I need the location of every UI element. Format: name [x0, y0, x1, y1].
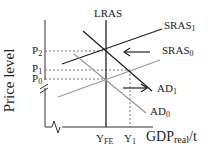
ad1-label: AD1	[157, 83, 177, 96]
ad1-curve	[83, 31, 152, 91]
lras-label: LRAS	[94, 8, 122, 19]
ad0-curve	[74, 54, 146, 113]
sras1-label: SRAS1	[164, 20, 196, 33]
sras0-curve	[58, 60, 160, 97]
y-axis-label: Price level	[1, 49, 18, 113]
ad0-label: AD0	[150, 106, 170, 119]
x-axis-label: GDPreal/t	[146, 130, 197, 145]
p2-label: P2	[32, 45, 42, 58]
sras0-label: SRAS0	[162, 45, 194, 58]
sras1-curve	[62, 29, 162, 64]
y1-label: Y1	[124, 133, 136, 146]
yfe-label: YFE	[96, 133, 113, 146]
shift-left-arrow-icon	[124, 48, 150, 56]
p0-label: P0	[32, 73, 42, 86]
shift-right-arrow-icon	[123, 84, 147, 92]
